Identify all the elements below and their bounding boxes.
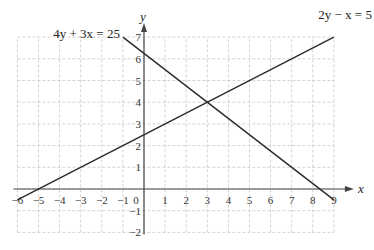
y-tick-label: −2 <box>129 226 141 238</box>
x-tick-label: 1 <box>162 194 168 206</box>
equation-labels: 4y + 3x = 252y − x = 5 <box>53 7 372 41</box>
series-lines <box>17 37 334 200</box>
x-tick-label: −3 <box>75 194 87 206</box>
y-tick-label: 4 <box>136 96 142 108</box>
y-tick-label: 7 <box>136 31 142 43</box>
y-axis-label: y <box>138 9 146 24</box>
equation-label-1: 4y + 3x = 25 <box>53 26 120 41</box>
y-tick-label: 2 <box>136 140 142 152</box>
x-tick-label: 7 <box>289 194 295 206</box>
y-tick-label: 5 <box>136 75 142 87</box>
x-tick-label: 9 <box>331 194 337 206</box>
x-tick-label: −5 <box>33 194 45 206</box>
tick-labels: −6−5−4−3−2−10123456789−2−11234567 <box>12 31 338 238</box>
line-graph: xy −6−5−4−3−2−10123456789−2−11234567 4y … <box>0 0 374 250</box>
x-tick-label: −1 <box>117 194 129 206</box>
y-axis-arrow-icon <box>141 23 147 32</box>
x-tick-label: −2 <box>96 194 108 206</box>
x-tick-label: 4 <box>226 194 232 206</box>
series-line-2 <box>17 37 334 200</box>
x-tick-label: 5 <box>247 194 253 206</box>
x-tick-label: 6 <box>268 194 274 206</box>
y-tick-label: −1 <box>129 205 141 217</box>
x-tick-label: 8 <box>310 194 316 206</box>
y-tick-label: 3 <box>136 118 142 130</box>
x-axis-label: x <box>357 181 364 196</box>
y-tick-label: 1 <box>136 161 142 173</box>
x-tick-label: 3 <box>205 194 211 206</box>
x-axis-arrow-icon <box>345 186 354 192</box>
y-tick-label: 6 <box>136 53 142 65</box>
x-tick-label: −4 <box>54 194 66 206</box>
equation-label-2: 2y − x = 5 <box>318 7 372 22</box>
x-tick-label: 2 <box>183 194 189 206</box>
